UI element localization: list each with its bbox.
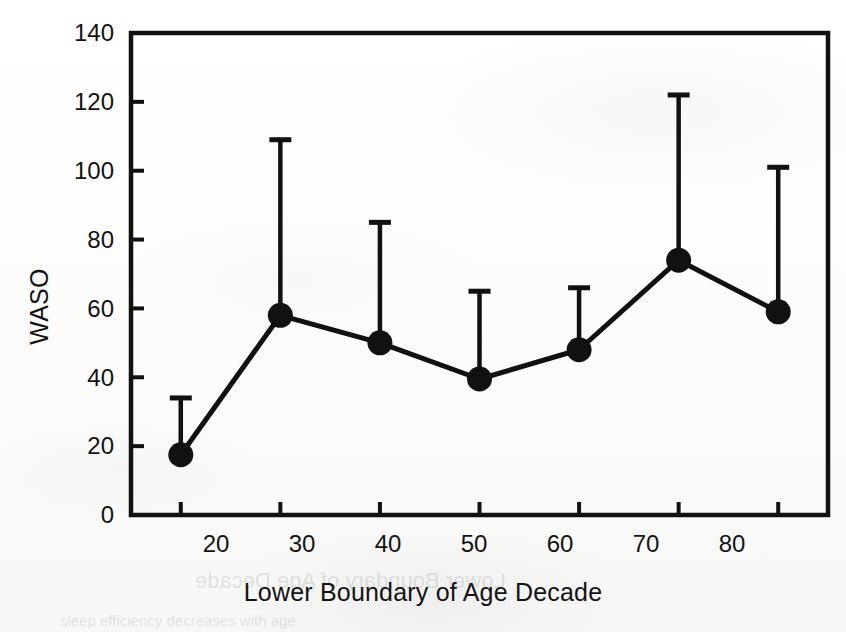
xtick-label-70: 70: [606, 530, 686, 558]
data-point-marker: [268, 303, 293, 328]
data-point-marker: [666, 248, 691, 273]
xtick-label-60: 60: [520, 530, 600, 558]
y-axis-title: WASO: [25, 247, 54, 367]
data-point-marker: [168, 442, 193, 467]
ytick-label-140: 140: [30, 19, 114, 47]
figure-page: Lower Boundary of Age Decade sleep effic…: [0, 0, 846, 632]
axis-frame-box: [131, 33, 828, 515]
xtick-label-40: 40: [348, 530, 428, 558]
error-bars: [170, 95, 789, 455]
ytick-label-120: 120: [30, 88, 114, 116]
xtick-label-50: 50: [434, 530, 514, 558]
ytick-label-20: 20: [30, 432, 114, 460]
xtick-label-20: 20: [176, 530, 256, 558]
axis-ticks: [131, 33, 778, 515]
data-point-marker: [367, 330, 392, 355]
xtick-label-30: 30: [262, 530, 342, 558]
x-axis-title: Lower Boundary of Age Decade: [0, 578, 846, 607]
ytick-label-100: 100: [30, 157, 114, 185]
data-point-marker: [567, 337, 592, 362]
data-point-marker: [766, 299, 791, 324]
data-point-marker: [467, 367, 492, 392]
ytick-label-0: 0: [30, 501, 114, 529]
ytick-label-40: 40: [30, 364, 114, 392]
axis-frame: [131, 33, 828, 515]
xtick-label-80: 80: [692, 530, 772, 558]
